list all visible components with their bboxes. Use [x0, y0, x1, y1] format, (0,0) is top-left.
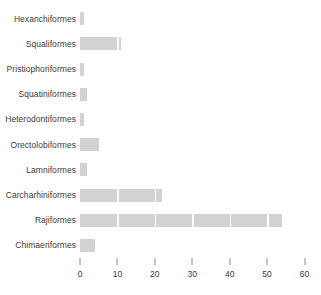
x-axis-tick-label: 50: [262, 269, 271, 279]
bar: [80, 88, 87, 101]
category-label-row: Squaliformes: [0, 31, 76, 56]
category-label: Squatiniformes: [19, 89, 76, 99]
bar-row: [80, 56, 312, 81]
category-label-row: Hexanchiformes: [0, 6, 76, 31]
bar: [80, 113, 84, 126]
category-label: Rajiformes: [35, 215, 76, 225]
x-axis-tick: [267, 258, 268, 265]
category-label-row: Rajiformes: [0, 208, 76, 233]
bar-row: [80, 208, 312, 233]
category-label-row: Heterodontiformes: [0, 107, 76, 132]
bar-row: [80, 107, 312, 132]
x-axis-tick: [192, 258, 193, 265]
x-axis-tick-label: 60: [300, 269, 309, 279]
category-label: Heterodontiformes: [5, 114, 76, 124]
bar-row: [80, 132, 312, 157]
bar-chart: Hexanchiformes Squaliformes Pristiophori…: [0, 0, 321, 295]
category-label: Squaliformes: [26, 39, 76, 49]
category-label-row: Squatiniformes: [0, 82, 76, 107]
bar-row: [80, 6, 312, 31]
category-label-row: Carcharhiniformes: [0, 182, 76, 207]
bar-row: [80, 157, 312, 182]
category-label: Hexanchiformes: [14, 14, 76, 24]
bar: [80, 214, 282, 227]
category-label-row: Pristiophoriformes: [0, 56, 76, 81]
category-label: Chimaeriformes: [15, 240, 76, 250]
x-axis-tick: [229, 258, 230, 265]
x-axis-tick: [304, 258, 305, 265]
category-label: Lamniformes: [26, 165, 76, 175]
category-label: Orectolobiformes: [10, 140, 76, 150]
bar-row: [80, 233, 312, 258]
bar-row: [80, 31, 312, 56]
plot-area: [80, 6, 312, 258]
x-axis-tick-label: 10: [113, 269, 122, 279]
x-axis-tick-label: 0: [78, 269, 83, 279]
category-label-row: Orectolobiformes: [0, 132, 76, 157]
bar: [80, 189, 162, 202]
bar: [80, 12, 84, 25]
x-axis-tick: [80, 258, 81, 265]
x-axis-tick-label: 40: [225, 269, 234, 279]
x-axis: 0102030405060: [80, 258, 312, 290]
bar-row: [80, 182, 312, 207]
x-axis-tick-label: 30: [188, 269, 197, 279]
x-axis-tick-label: 20: [150, 269, 159, 279]
category-label-row: Chimaeriformes: [0, 233, 76, 258]
x-axis-tick: [117, 258, 118, 265]
bar: [80, 63, 84, 76]
category-label-row: Lamniformes: [0, 157, 76, 182]
bar-row: [80, 82, 312, 107]
category-axis-labels: Hexanchiformes Squaliformes Pristiophori…: [0, 6, 76, 258]
bar: [80, 239, 95, 252]
bar: [80, 138, 99, 151]
bar: [80, 163, 87, 176]
bar: [80, 37, 121, 50]
category-label: Pristiophoriformes: [7, 64, 76, 74]
x-axis-tick: [154, 258, 155, 265]
bar-series: [80, 6, 312, 258]
category-label: Carcharhiniformes: [6, 190, 76, 200]
